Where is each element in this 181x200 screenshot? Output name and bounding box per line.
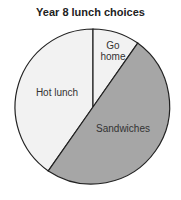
pie-chart	[0, 0, 181, 200]
label-go-home: Go home	[96, 40, 130, 62]
label-sandwiches: Sandwiches	[88, 123, 158, 134]
label-hot-lunch: Hot lunch	[28, 87, 86, 98]
